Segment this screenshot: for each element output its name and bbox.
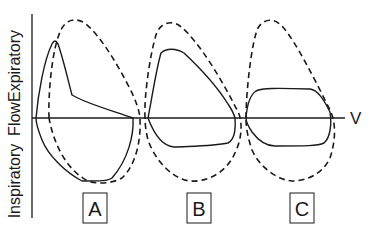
- flow-label: Flow: [6, 102, 23, 136]
- panel-label-b-text: B: [192, 198, 205, 220]
- loop-b: [145, 23, 241, 181]
- panel-label-b: B: [187, 193, 211, 223]
- expiratory-label: Expiratory: [6, 30, 23, 102]
- inspiratory-label: Inspiratory: [6, 144, 23, 219]
- loop-c: [246, 20, 335, 181]
- panel-label-c: C: [290, 193, 314, 223]
- loop-c-observed: [246, 88, 331, 146]
- panel-label-a: A: [83, 193, 107, 223]
- flow-volume-diagram: Expiratory Flow Inspiratory V A B C: [0, 0, 370, 235]
- loop-c-normal: [246, 20, 335, 181]
- loop-b-observed: [148, 49, 235, 147]
- panel-label-a-text: A: [88, 198, 102, 220]
- panel-label-c-text: C: [295, 198, 309, 220]
- loop-a-normal: [49, 20, 140, 183]
- loop-a: [36, 20, 140, 183]
- loop-a-observed: [36, 41, 133, 181]
- volume-label: V: [350, 109, 362, 128]
